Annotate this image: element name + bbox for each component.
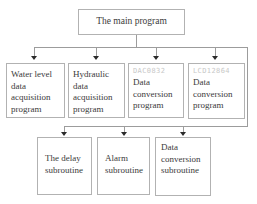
box-text-line: The delay	[45, 153, 89, 165]
arrow-down-icon	[61, 132, 67, 136]
right-riser-line	[247, 47, 248, 127]
box-text-line: Data	[161, 142, 208, 154]
level3-bus-line	[64, 126, 248, 127]
box-text-line: subroutine	[161, 165, 208, 177]
box-text-line: Alarm	[105, 153, 147, 165]
lcd12864-chip-label: LCD12864	[193, 67, 242, 76]
box-text-line: Data	[133, 77, 181, 89]
dac0832-chip-label: DAC0832	[133, 67, 181, 76]
box-text-line: conversion	[161, 154, 208, 166]
data-conversion-subroutine-box: Data conversion subroutine	[155, 137, 211, 196]
water-level-acquisition-box: Water level data acquisition program	[6, 63, 65, 118]
box-text-line: data	[73, 81, 122, 93]
drop-line	[34, 47, 35, 56]
box-text-line: data	[11, 81, 62, 93]
main-program-label: The main program	[96, 16, 167, 28]
dac0832-conversion-box: DAC0832 Data conversion program	[128, 63, 184, 118]
box-text-line: conversion	[193, 89, 242, 101]
box-text-line: acquisition	[73, 92, 122, 104]
lcd12864-conversion-box: LCD12864 Data conversion program	[188, 63, 245, 119]
delay-subroutine-box: The delay subroutine	[37, 137, 92, 195]
box-text-line: Hydraulic	[73, 69, 122, 81]
box-text-line: subroutine	[45, 165, 89, 177]
main-stem-line	[136, 35, 137, 47]
arrow-down-icon	[93, 56, 99, 60]
box-text-line: Water level	[11, 69, 62, 81]
arrow-down-icon	[212, 56, 218, 60]
arrow-down-icon	[153, 56, 159, 60]
box-text-line: program	[193, 100, 242, 112]
drop-line	[156, 47, 157, 56]
main-program-box: The main program	[78, 9, 185, 35]
alarm-subroutine-box: Alarm subroutine	[97, 137, 150, 195]
arrow-down-icon	[180, 132, 186, 136]
box-text-line: program	[133, 100, 181, 112]
box-text-line: conversion	[133, 89, 181, 101]
arrow-down-icon	[31, 56, 37, 60]
box-text-line: program	[11, 104, 62, 116]
hydraulic-acquisition-box: Hydraulic data acquisition program	[68, 63, 125, 118]
box-text-line: acquisition	[11, 92, 62, 104]
box-text-line: Data	[193, 77, 242, 89]
box-text-line: program	[73, 104, 122, 116]
box-text-line: subroutine	[105, 165, 147, 177]
drop-line	[96, 47, 97, 56]
arrow-down-icon	[121, 132, 127, 136]
drop-line	[215, 47, 216, 56]
flowchart-canvas: The main program Water level data acquis…	[0, 0, 257, 204]
